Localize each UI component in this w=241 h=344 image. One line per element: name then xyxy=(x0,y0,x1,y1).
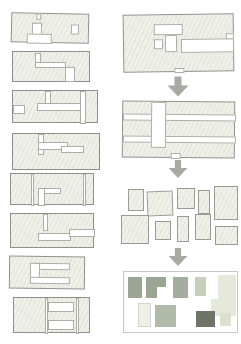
courtyard-cut xyxy=(174,68,184,73)
courtyard-cut xyxy=(76,298,79,334)
step-1-superblock xyxy=(123,13,235,73)
plan-block-8 xyxy=(13,297,90,333)
parcel-shape xyxy=(157,287,166,298)
courtyard-cut xyxy=(35,62,66,68)
courtyard-cut xyxy=(13,105,25,114)
courtyard-cut xyxy=(38,233,71,241)
down-arrow-2 xyxy=(167,160,189,178)
building-footprint xyxy=(155,221,171,240)
courtyard-cut xyxy=(45,298,48,334)
down-arrow-icon xyxy=(167,76,189,97)
courtyard-cut xyxy=(36,14,41,20)
courtyard-cut xyxy=(38,188,45,206)
building-footprint xyxy=(147,191,174,217)
courtyard-cut xyxy=(80,91,86,124)
step-4-parcels xyxy=(123,271,238,333)
courtyard-cut xyxy=(171,153,181,159)
parcel-shape xyxy=(220,313,231,326)
down-arrow-icon xyxy=(167,248,189,266)
courtyard-cut xyxy=(226,33,234,39)
courtyard-cut xyxy=(123,114,236,122)
step-2-gridded-block xyxy=(122,101,235,159)
parcel-shape xyxy=(155,305,176,327)
courtyard-cut xyxy=(151,102,166,148)
parcel-shape xyxy=(173,277,188,298)
courtyard-cut xyxy=(154,24,183,35)
parcel-shape xyxy=(196,311,215,327)
plan-block-2 xyxy=(12,51,90,82)
courtyard-cut xyxy=(48,302,74,312)
parcel-shape xyxy=(138,303,151,327)
building-footprint xyxy=(215,226,238,245)
down-arrow-icon xyxy=(167,160,189,178)
courtyard-cut xyxy=(69,229,95,237)
plan-block-3 xyxy=(12,90,98,123)
down-arrow-3 xyxy=(167,248,189,266)
plan-block-7 xyxy=(9,256,85,290)
diagram-canvas xyxy=(0,0,241,344)
building-footprint xyxy=(177,188,195,209)
parcel-shape xyxy=(195,277,206,296)
courtyard-cut xyxy=(123,136,236,144)
courtyard-cut xyxy=(31,174,34,206)
parcel-shape xyxy=(218,275,236,301)
building-footprint xyxy=(121,215,149,244)
courtyard-cut xyxy=(65,67,75,82)
step-3-buildings xyxy=(121,183,238,245)
building-footprint xyxy=(195,214,211,240)
plan-block-5 xyxy=(10,173,94,205)
courtyard-cut xyxy=(43,214,48,231)
building-footprint xyxy=(214,186,238,220)
courtyard-cut xyxy=(165,35,177,52)
plan-block-1 xyxy=(11,12,90,44)
courtyard-cut xyxy=(27,34,52,45)
courtyard-cut xyxy=(181,38,234,53)
plan-block-6 xyxy=(10,213,94,248)
down-arrow-1 xyxy=(167,76,189,97)
building-footprint xyxy=(198,190,210,214)
courtyard-cut xyxy=(71,24,79,34)
parcel-shape xyxy=(128,277,142,298)
building-footprint xyxy=(177,216,189,242)
courtyard-cut xyxy=(61,146,84,153)
courtyard-cut xyxy=(154,39,163,49)
courtyard-cut xyxy=(37,103,83,111)
plan-block-4 xyxy=(12,133,100,170)
building-footprint xyxy=(128,189,144,211)
courtyard-cut xyxy=(83,174,86,206)
courtyard-cut xyxy=(30,277,70,284)
courtyard-cut xyxy=(48,320,74,330)
